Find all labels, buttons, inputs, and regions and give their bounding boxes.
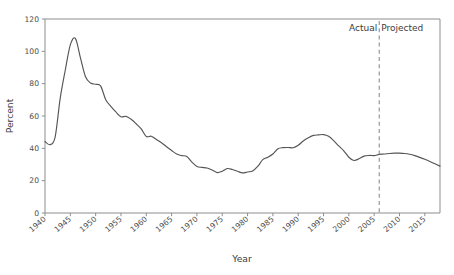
y-tick-label: 100 <box>25 47 40 56</box>
y-tick-label: 60 <box>29 112 39 121</box>
x-tick-label: 1950 <box>78 215 99 234</box>
x-tick-label: 2005 <box>356 215 377 234</box>
actual-label: Actual <box>349 23 377 33</box>
x-tick-label: 1970 <box>179 215 200 234</box>
x-tick-label: 2015 <box>407 215 428 234</box>
x-tick-label: 1965 <box>154 215 175 234</box>
x-axis-ticks: 1940194519501955196019651970197519801985… <box>27 213 428 234</box>
x-tick-label: 1975 <box>204 215 225 234</box>
x-tick-label: 1990 <box>280 215 301 234</box>
x-tick-label: 2010 <box>382 215 403 234</box>
y-tick-label: 120 <box>25 15 40 24</box>
y-axis-label: Percent <box>4 98 15 133</box>
x-tick-label: 1995 <box>306 215 327 234</box>
y-tick-label: 20 <box>29 176 39 185</box>
data-series-line <box>45 38 440 173</box>
x-axis-label: Year <box>231 253 252 264</box>
x-tick-label: 1940 <box>27 215 48 234</box>
x-tick-label: 1960 <box>128 215 149 234</box>
x-tick-label: 2000 <box>331 215 352 234</box>
line-chart: 020406080100120 194019451950195519601965… <box>0 0 454 275</box>
y-tick-label: 80 <box>29 79 39 88</box>
x-tick-label: 1945 <box>53 215 74 234</box>
chart-figure: 020406080100120 194019451950195519601965… <box>0 0 454 275</box>
projected-label: Projected <box>381 23 423 33</box>
x-tick-label: 1955 <box>103 215 124 234</box>
x-tick-label: 1985 <box>255 215 276 234</box>
y-axis-ticks: 020406080100120 <box>25 15 46 218</box>
y-tick-label: 40 <box>29 144 39 153</box>
x-tick-label: 1980 <box>230 215 251 234</box>
